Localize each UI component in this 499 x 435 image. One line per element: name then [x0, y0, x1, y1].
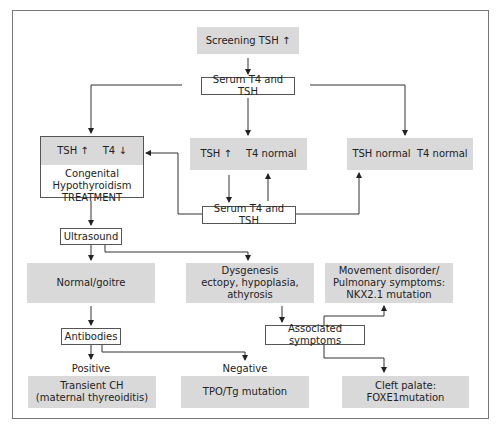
node-serum-mid-label: Serum T4 and TSH	[203, 203, 295, 227]
congenital-line3: TREATMENT	[62, 192, 122, 204]
movement-line2: Pulmonary symptoms:	[333, 277, 445, 289]
dysgenesis-line2: ectopy, hypoplasia, athyrosis	[186, 277, 314, 301]
node-serum-t4-tsh-top: Serum T4 and TSH	[201, 77, 295, 95]
node-movement-disorder: Movement disorder/ Pulmonary symptoms: N…	[325, 263, 453, 303]
node-tpo-label: TPO/Tg mutation	[203, 386, 287, 398]
node-ultrasound: Ultrasound	[60, 228, 122, 245]
edge-label-negative: Negative	[215, 363, 275, 374]
node-serum-top-label: Serum T4 and TSH	[202, 74, 294, 98]
node-antibodies-label: Antibodies	[65, 331, 118, 343]
node-cleft-label: Cleft palate: FOXE1mutation	[342, 380, 469, 404]
node-serum-t4-tsh-mid: Serum T4 and TSH	[202, 206, 296, 224]
t4-normal-label: T4 normal	[246, 148, 297, 160]
congenital-line2: Hypothyroidism	[53, 180, 132, 192]
transient-line2: (maternal thyreoiditis)	[36, 392, 148, 404]
node-normal-goitre-label: Normal/goitre	[57, 277, 126, 289]
t4-down-label: T4 ↓	[103, 145, 127, 156]
edge-label-positive: Positive	[61, 363, 121, 374]
node-normal-goitre: Normal/goitre	[27, 263, 155, 303]
node-associated-label: Associated symptoms	[266, 323, 364, 347]
node-tsh-up-t4-down-header: TSH ↑ T4 ↓	[41, 137, 143, 165]
tsh-up-label: TSH ↑	[57, 145, 89, 156]
transient-line1: Transient CH	[60, 380, 123, 392]
congenital-line1: Congenital	[65, 168, 119, 180]
tsh-normal-t4-normal-label: TSH normal T4 normal	[352, 148, 467, 160]
node-dysgenesis: Dysgenesis ectopy, hypoplasia, athyrosis	[186, 263, 314, 303]
node-cleft-palate: Cleft palate: FOXE1mutation	[342, 376, 469, 408]
tsh-up-label: TSH ↑	[200, 148, 232, 160]
node-associated-symptoms: Associated symptoms	[265, 325, 365, 345]
node-congenital-body: Congenital Hypothyroidism TREATMENT	[41, 165, 143, 204]
movement-line1: Movement disorder/	[339, 265, 440, 277]
node-screening-label: Screening TSH ↑	[206, 35, 291, 47]
node-tpo-tg-mutation: TPO/Tg mutation	[181, 376, 309, 408]
node-tsh-normal-t4-normal: TSH normal T4 normal	[347, 138, 473, 170]
node-tsh-up-t4-normal: TSH ↑ T4 normal	[190, 138, 307, 170]
dysgenesis-line1: Dysgenesis	[221, 265, 278, 277]
node-screening-tsh: Screening TSH ↑	[197, 27, 299, 54]
movement-line3: NKX2.1 mutation	[346, 289, 431, 301]
node-transient-ch: Transient CH (maternal thyreoiditis)	[28, 376, 156, 408]
node-antibodies: Antibodies	[61, 328, 121, 345]
node-congenital-hypothyroidism: TSH ↑ T4 ↓ Congenital Hypothyroidism TRE…	[40, 136, 144, 198]
node-ultrasound-label: Ultrasound	[64, 231, 119, 243]
